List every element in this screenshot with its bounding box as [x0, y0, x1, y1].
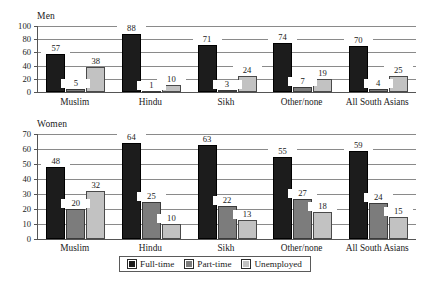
y-axis-tick [34, 149, 38, 150]
data-label: 32 [81, 181, 110, 190]
data-label: 25 [137, 192, 166, 201]
legend-label: Full-time [140, 259, 174, 269]
bar-pt [66, 209, 85, 239]
y-axis-label: 20 [1, 204, 31, 214]
y-axis-tick [34, 164, 38, 165]
y-axis-label: 0 [1, 234, 31, 244]
bar-ft [273, 157, 292, 240]
bar-un [162, 224, 181, 239]
data-label: 15 [384, 207, 413, 216]
legend-item-ft: Full-time [128, 259, 174, 269]
y-axis-tick [34, 194, 38, 195]
legend-swatch-un-icon [242, 260, 250, 268]
y-axis-label: 30 [1, 189, 31, 199]
bar-un [389, 217, 408, 240]
y-axis-tick [34, 179, 38, 180]
y-axis-label: 50 [1, 159, 31, 169]
legend-item-pt: Part-time [185, 259, 231, 269]
x-axis-category-label: Muslim [37, 243, 113, 253]
data-label: 48 [41, 157, 70, 166]
y-axis-label: 40 [1, 174, 31, 184]
gridline [38, 239, 416, 240]
legend-swatch-pt-icon [185, 260, 193, 268]
data-label: 64 [117, 133, 146, 142]
legend-swatch-ft-icon [128, 260, 136, 268]
gridline [38, 134, 416, 135]
data-label: 13 [233, 210, 262, 219]
chart-panel-women: Women 010203040506070482032Muslim642510H… [0, 0, 421, 284]
y-axis-label: 60 [1, 144, 31, 154]
data-label: 22 [213, 196, 242, 205]
chart-legend: Full-timePart-timeUnemployed [119, 256, 311, 272]
legend-label: Part-time [197, 259, 231, 269]
legend-label: Unemployed [254, 259, 301, 269]
data-label: 24 [364, 193, 393, 202]
y-axis-tick [34, 209, 38, 210]
data-label: 55 [268, 147, 297, 156]
y-axis-tick [34, 224, 38, 225]
y-axis-label: 70 [1, 129, 31, 139]
y-axis-label: 10 [1, 219, 31, 229]
y-axis-tick [34, 239, 38, 240]
legend-item-un: Unemployed [242, 259, 301, 269]
data-label: 10 [157, 214, 186, 223]
x-axis-category-label: Hindu [113, 243, 189, 253]
bar-ft [198, 145, 217, 240]
data-label: 63 [193, 135, 222, 144]
bar-un [313, 212, 332, 239]
data-label: 20 [61, 199, 90, 208]
x-axis-category-label: Other/none [264, 243, 340, 253]
x-axis-category-label: All South Asians [339, 243, 415, 253]
data-label: 18 [308, 202, 337, 211]
x-axis-category-label: Sikh [188, 243, 264, 253]
bar-un [238, 220, 257, 240]
figure-two-bar-charts: Men 02040608010057538Muslim88110Hindu713… [0, 0, 421, 284]
data-label: 27 [288, 189, 317, 198]
chart-title-women: Women [37, 119, 67, 129]
data-label: 59 [344, 141, 373, 150]
y-axis-tick [34, 134, 38, 135]
